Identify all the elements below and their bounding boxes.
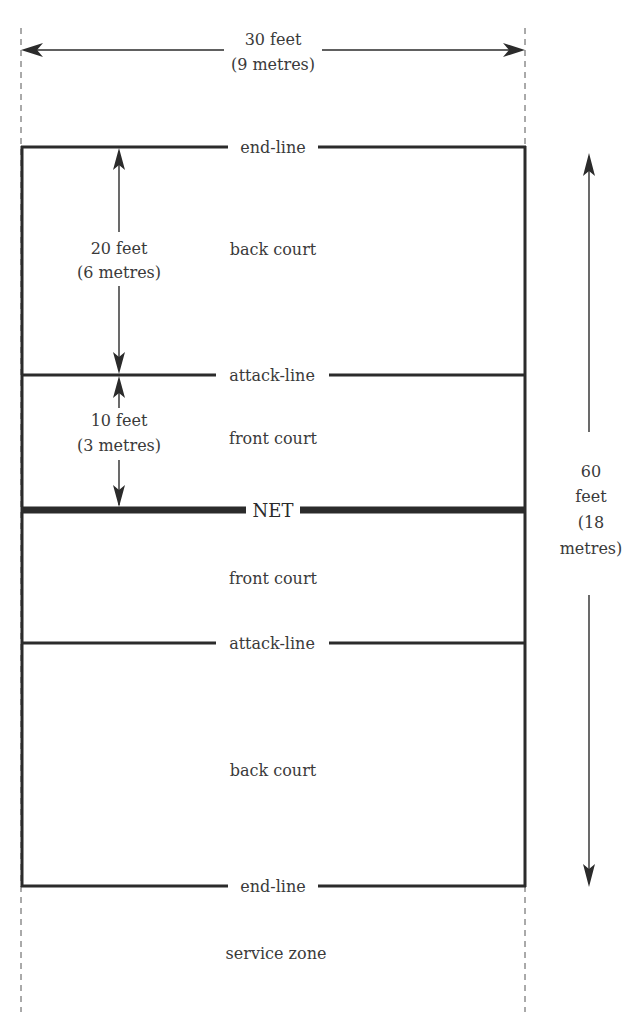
front-court-depth-metres-label: (3 metres) [77,436,161,455]
volleyball-court-diagram: 30 feet (9 metres) end-line attack-line … [0,0,631,1025]
length-line1-label: 60 [581,462,601,481]
top-front-court-label: front court [229,429,318,448]
bottom-end-line-label: end-line [240,877,305,896]
front-court-depth-feet-label: 10 feet [91,411,148,430]
width-feet-label: 30 feet [245,30,302,49]
bottom-attack-line-label: attack-line [229,634,315,653]
back-court-depth-feet-label: 20 feet [91,239,148,258]
bottom-front-court-label: front court [229,569,318,588]
bottom-back-court-label: back court [230,761,317,780]
top-end-line-label: end-line [240,138,305,157]
length-line4-label: metres) [560,539,623,558]
top-attack-line-label: attack-line [229,366,315,385]
length-line3-label: (18 [578,513,605,532]
length-line2-label: feet [575,487,607,506]
back-court-depth-arrow [113,148,125,374]
net-label: NET [253,500,294,521]
width-metres-label: (9 metres) [231,55,315,74]
service-zone-label: service zone [226,944,327,963]
top-back-court-label: back court [230,240,317,259]
back-court-depth-metres-label: (6 metres) [77,263,161,282]
